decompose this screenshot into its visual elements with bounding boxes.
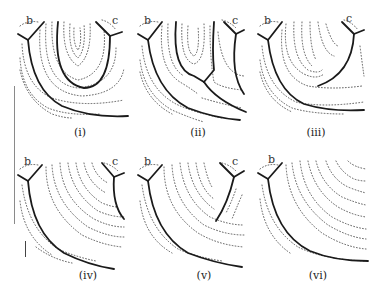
panel-i-drawing [12,4,137,129]
panel-caption: (ii) [178,126,218,139]
panel-vi-drawing [252,149,369,274]
panel-i: b c (i) [12,4,137,149]
panel-caption: (i) [60,126,100,139]
panel-v-drawing [132,149,257,274]
panel-iv-drawing [12,149,137,274]
panel-caption: (vi) [298,269,338,282]
panel-caption: (iv) [68,269,108,282]
panel-iv: b c (iv) [12,149,137,290]
panel-caption: (v) [184,269,224,282]
panel-iii: b c (iii) [252,4,369,149]
panel-caption: (iii) [296,126,336,139]
panel-iii-drawing [252,4,369,129]
panel-ii-drawing [132,4,257,129]
panel-vi: b (vi) [252,149,369,290]
panel-ii: b c (ii) [132,4,257,149]
panel-v: b c (v) [132,149,257,290]
